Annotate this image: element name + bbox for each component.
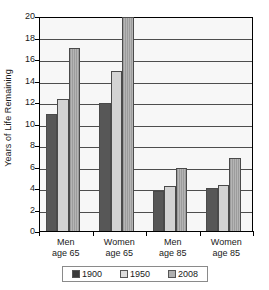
y-axis-tick-label: 4 (17, 184, 35, 193)
x-axis-tick-mark (39, 232, 40, 236)
x-axis-category-label: Menage 65 (39, 237, 93, 259)
x-axis-category-label-line: age 65 (93, 248, 147, 259)
y-axis-tick-label: 16 (17, 55, 35, 64)
bar-1950-women-age-85 (218, 185, 230, 232)
y-axis-tick-mark (35, 103, 39, 104)
bar-2008-women-age-85 (229, 158, 241, 232)
x-axis-tick-mark (146, 232, 147, 236)
y-axis-tick-mark (35, 82, 39, 83)
y-axis-tick-label: 0 (17, 227, 35, 236)
x-axis-category-label-line: age 65 (39, 248, 93, 259)
legend-item-label: 1950 (130, 270, 150, 279)
bar-2008-men-age-65 (69, 48, 81, 232)
y-axis-tick-mark (35, 17, 39, 18)
bar-2008-men-age-85 (176, 168, 188, 233)
x-axis-category-label-line: Women (200, 237, 254, 248)
bar-1950-men-age-85 (164, 186, 176, 232)
x-axis-tick-mark (253, 232, 254, 236)
x-axis-category-label-line: age 85 (146, 248, 200, 259)
y-axis-tick-mark (35, 189, 39, 190)
y-axis-tick-label: 10 (17, 120, 35, 129)
legend-item-2008[interactable]: 2008 (168, 270, 198, 279)
y-axis-tick-label: 20 (17, 12, 35, 21)
legend-item-label: 1900 (82, 270, 102, 279)
y-axis-title-text: Years of Life Remaining (3, 69, 13, 167)
x-axis-category-label-line: Men (39, 237, 93, 248)
y-axis-tick-mark (35, 39, 39, 40)
medium-gray-swatch (168, 270, 176, 278)
x-axis-category-labels: Menage 65Womenage 65Menage 85Womenage 85 (39, 237, 253, 263)
y-axis-tick-label: 14 (17, 77, 35, 86)
x-axis-tick-mark (93, 232, 94, 236)
x-axis-category-label: Womenage 85 (200, 237, 254, 259)
x-axis-category-label-line: Men (146, 237, 200, 248)
y-axis-tick-label: 2 (17, 206, 35, 215)
y-axis-tick-label: 6 (17, 163, 35, 172)
x-axis-category-label: Womenage 65 (93, 237, 147, 259)
legend-item-1900[interactable]: 1900 (72, 270, 102, 279)
bar-1900-men-age-65 (46, 114, 58, 232)
bar-1950-women-age-65 (111, 71, 123, 232)
bar-1900-women-age-85 (206, 188, 218, 232)
legend-item-1950[interactable]: 1950 (120, 270, 150, 279)
dark-gray-swatch (72, 270, 80, 278)
chart-legend: 190019502008 (62, 266, 208, 282)
y-axis-tick-label: 8 (17, 141, 35, 150)
y-axis-tick-label: 12 (17, 98, 35, 107)
bar-1900-men-age-85 (153, 191, 165, 232)
y-axis-tick-mark (35, 60, 39, 61)
y-axis-tick-labels: 02468101214161820 (14, 0, 35, 290)
y-axis-tick-mark (35, 146, 39, 147)
x-axis-category-label-line: Women (93, 237, 147, 248)
y-axis-tick-mark (35, 125, 39, 126)
light-gray-swatch (120, 270, 128, 278)
x-axis-category-label: Menage 85 (146, 237, 200, 259)
y-axis-tick-mark (35, 168, 39, 169)
y-axis-tick-label: 18 (17, 34, 35, 43)
x-axis-tick-mark (200, 232, 201, 236)
bar-2008-women-age-65 (122, 17, 134, 232)
x-axis-category-label-line: age 85 (200, 248, 254, 259)
bar-1950-men-age-65 (57, 99, 69, 232)
y-axis-tick-mark (35, 211, 39, 212)
legend-item-label: 2008 (178, 270, 198, 279)
bars-layer (39, 17, 253, 232)
bar-chart: Years of Life Remaining 0246810121416182… (0, 0, 269, 290)
bar-1900-women-age-65 (99, 103, 111, 232)
